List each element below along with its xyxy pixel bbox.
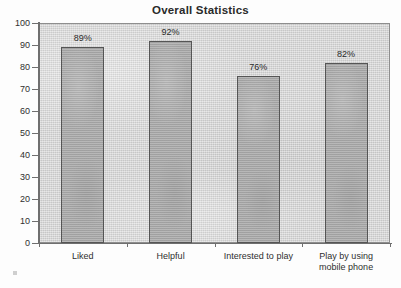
y-axis-tick-label: 70 bbox=[2, 85, 30, 94]
bar bbox=[325, 63, 368, 243]
y-axis-tick-label: 30 bbox=[2, 173, 30, 182]
chart-title: Overall Statistics bbox=[0, 4, 401, 16]
y-axis-tick bbox=[32, 243, 38, 244]
x-axis-category-label: Interested to play bbox=[215, 251, 303, 262]
y-axis-line bbox=[38, 22, 40, 244]
y-axis-tick bbox=[32, 221, 38, 222]
y-axis-tick-label: 0 bbox=[2, 239, 30, 248]
bar-data-label: 76% bbox=[228, 63, 288, 72]
x-axis-tick bbox=[390, 243, 391, 247]
y-axis-tick bbox=[32, 67, 38, 68]
bar bbox=[237, 76, 280, 243]
y-axis-tick bbox=[32, 111, 38, 112]
x-axis-tick bbox=[215, 243, 216, 247]
y-axis-tick-label: 60 bbox=[2, 107, 30, 116]
y-axis-tick-label: 20 bbox=[2, 195, 30, 204]
y-axis-tick bbox=[32, 155, 38, 156]
x-axis-tick bbox=[127, 243, 128, 247]
bar bbox=[61, 47, 104, 243]
bar bbox=[149, 41, 192, 243]
bar-texture bbox=[326, 64, 367, 242]
bar-data-label: 92% bbox=[141, 28, 201, 37]
bar-data-label: 82% bbox=[316, 50, 376, 59]
y-axis-tick-label: 90 bbox=[2, 41, 30, 50]
y-axis-tick-label: 10 bbox=[2, 217, 30, 226]
x-axis-tick bbox=[302, 243, 303, 247]
bar-texture bbox=[150, 42, 191, 242]
y-axis-tick-label: 50 bbox=[2, 129, 30, 138]
x-axis-tick bbox=[39, 243, 40, 247]
bar-texture bbox=[238, 77, 279, 242]
x-axis-category-label: Helpful bbox=[127, 251, 215, 262]
y-axis-tick bbox=[32, 133, 38, 134]
y-axis-tick bbox=[32, 89, 38, 90]
scan-artifact bbox=[13, 271, 17, 275]
bar-chart: Overall Statistics 100908070605040302010… bbox=[0, 0, 401, 288]
y-axis-tick bbox=[32, 45, 38, 46]
y-axis-tick-label: 40 bbox=[2, 151, 30, 160]
y-axis-tick-label: 100 bbox=[2, 19, 30, 28]
bar-data-label: 89% bbox=[53, 34, 113, 43]
y-axis-tick bbox=[32, 23, 38, 24]
bar-texture bbox=[62, 48, 103, 242]
y-axis-tick bbox=[32, 177, 38, 178]
y-axis-tick-label: 80 bbox=[2, 63, 30, 72]
x-axis-category-label: Play by using mobile phone bbox=[302, 251, 390, 273]
x-axis-category-label: Liked bbox=[39, 251, 127, 262]
y-axis-tick bbox=[32, 199, 38, 200]
